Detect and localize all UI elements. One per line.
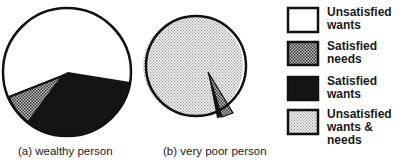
legend-label-unsatisfied-wants-needs: Unsatisfied wants & needs <box>327 108 402 147</box>
legend-text-line: wants & needs <box>327 121 402 147</box>
legend-swatch-satisfied-wants <box>288 77 318 100</box>
caption-very-poor-person: (b) very poor person <box>163 145 267 157</box>
legend-label-unsatisfied-wants: Unsatisfied wants <box>327 6 392 32</box>
legend-swatch-unsatisfied-wants-needs <box>288 110 318 134</box>
legend <box>288 8 318 134</box>
caption-wealthy-person: (a) wealthy person <box>18 145 113 157</box>
pie-chart-very-poor <box>143 16 246 118</box>
legend-text-line: needs <box>327 53 377 66</box>
legend-text-line: wants <box>327 19 392 32</box>
legend-swatch-satisfied-needs <box>288 42 318 65</box>
legend-label-satisfied-wants: Satisfied wants <box>327 75 377 101</box>
segment-unsatisfied-wants-needs <box>143 16 243 116</box>
legend-swatch-unsatisfied-wants <box>288 8 318 32</box>
legend-text-line: wants <box>327 88 377 101</box>
legend-label-satisfied-needs: Satisfied needs <box>327 40 377 66</box>
pie-chart-wealthy <box>3 8 131 136</box>
